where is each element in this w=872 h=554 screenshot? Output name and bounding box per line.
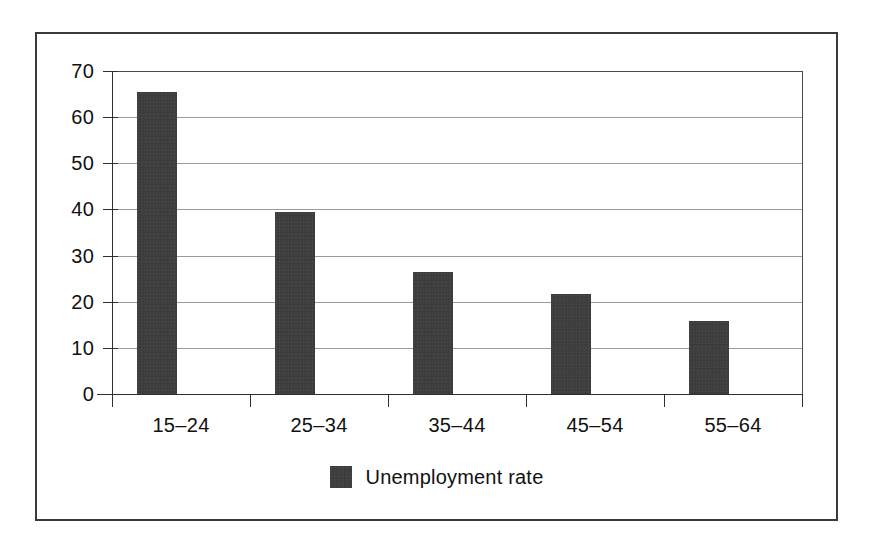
- x-tick-mark-1: [250, 394, 251, 407]
- bar-chart: 70 60 50 40 30 20 10 0 15–24 25–34 35–44…: [37, 34, 836, 519]
- y-axis-line: [112, 71, 113, 395]
- x-tick-mark-0: [112, 394, 113, 407]
- plot-right-edge: [802, 71, 803, 395]
- y-axis-label-10: 10: [48, 338, 94, 358]
- bar-15-24[interactable]: [137, 92, 177, 394]
- gridline-40: [112, 209, 802, 210]
- gridline-60: [112, 117, 802, 118]
- bar-45-54[interactable]: [551, 294, 591, 394]
- y-axis-label-20: 20: [48, 292, 94, 312]
- x-tick-mark-3: [526, 394, 527, 407]
- chart-legend: Unemployment rate: [37, 466, 836, 488]
- y-axis-label-30: 30: [48, 246, 94, 266]
- x-tick-mark-5: [802, 394, 803, 407]
- y-tick-mark-50: [103, 163, 118, 164]
- y-axis-label-40: 40: [48, 199, 94, 219]
- x-axis-label-45-54: 45–54: [526, 414, 664, 436]
- x-axis-label-25-34: 25–34: [250, 414, 388, 436]
- y-tick-mark-20: [103, 302, 118, 303]
- y-tick-mark-10: [103, 348, 118, 349]
- y-axis-label-0: 0: [48, 384, 94, 404]
- gridline-20: [112, 302, 802, 303]
- y-tick-mark-70: [103, 71, 118, 72]
- gridline-30: [112, 256, 802, 257]
- y-axis-label-70: 70: [48, 61, 94, 81]
- y-axis-label-50: 50: [48, 153, 94, 173]
- plot-area: [112, 71, 802, 394]
- bar-25-34[interactable]: [275, 212, 315, 394]
- bar-55-64[interactable]: [689, 321, 729, 394]
- bar-35-44[interactable]: [413, 272, 453, 394]
- x-axis-label-55-64: 55–64: [664, 414, 802, 436]
- x-axis-label-35-44: 35–44: [388, 414, 526, 436]
- y-tick-mark-60: [103, 117, 118, 118]
- y-tick-mark-30: [103, 256, 118, 257]
- x-axis-line: [97, 394, 802, 395]
- legend-swatch-square: [330, 466, 352, 488]
- x-tick-mark-2: [388, 394, 389, 407]
- x-tick-mark-4: [664, 394, 665, 407]
- gridline-70: [112, 71, 802, 72]
- y-tick-mark-40: [103, 209, 118, 210]
- gridline-50: [112, 163, 802, 164]
- legend-label-unemployment-rate: Unemployment rate: [366, 466, 544, 488]
- x-axis-label-15-24: 15–24: [112, 414, 250, 436]
- y-tick-mark-0: [103, 394, 118, 395]
- figure-frame: 70 60 50 40 30 20 10 0 15–24 25–34 35–44…: [35, 32, 838, 521]
- y-axis-label-60: 60: [48, 107, 94, 127]
